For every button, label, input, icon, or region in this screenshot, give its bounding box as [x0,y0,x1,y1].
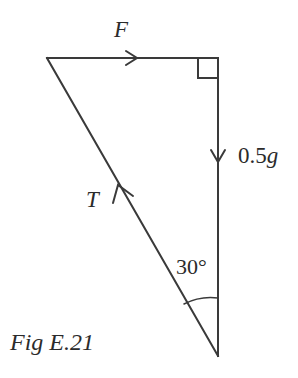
angle-arc-icon [184,298,218,304]
weight-unit: g [267,143,279,168]
force-triangle-figure: F T 0.5g 30° Fig E.21 [0,0,298,378]
arrow-up-left-icon [113,185,133,203]
figure-caption: Fig E.21 [10,330,94,354]
right-angle-marker-icon [198,58,218,78]
weight-value: 0.5 [238,143,267,168]
hypotenuse-line [47,58,218,356]
angle-label: 30° [176,256,207,278]
weight-label: 0.5g [238,144,278,167]
triangle-diagram-svg [0,0,298,378]
force-label-F: F [114,18,128,41]
tension-label-T: T [86,188,99,211]
